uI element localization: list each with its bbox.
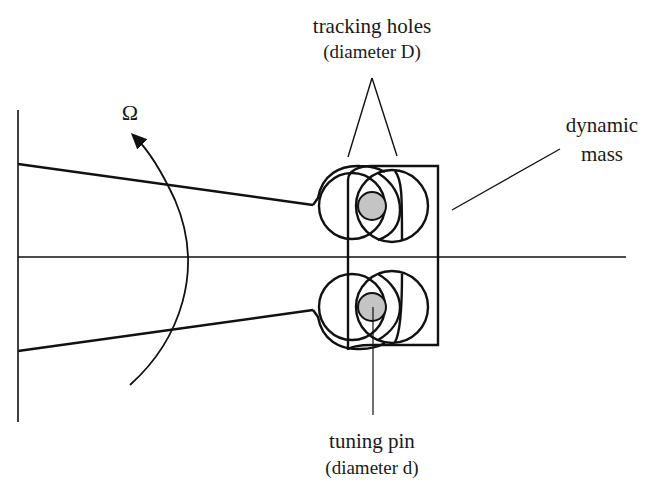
diagram-svg: Ω tracking holes (diameter D) dynamic ma… xyxy=(0,0,664,489)
dynamic-mass-label: dynamic xyxy=(566,113,638,137)
dynamic-mass-leader xyxy=(452,149,560,210)
tuning-pin-label: tuning pin xyxy=(329,429,415,453)
upper-tuning-pin xyxy=(358,192,386,220)
rotation-arrow-icon xyxy=(130,138,188,385)
tuning-pin-sublabel: (diameter d) xyxy=(325,457,418,479)
tracking-holes-leader xyxy=(348,78,397,157)
dynamic-mass-label-2: mass xyxy=(581,142,623,166)
tracking-holes-sublabel: (diameter D) xyxy=(323,41,421,63)
damper-diagram: Ω tracking holes (diameter D) dynamic ma… xyxy=(0,0,664,489)
tracking-holes-label: tracking holes xyxy=(313,14,431,38)
lower-tuning-pin xyxy=(358,293,386,321)
rotation-symbol: Ω xyxy=(122,100,138,125)
